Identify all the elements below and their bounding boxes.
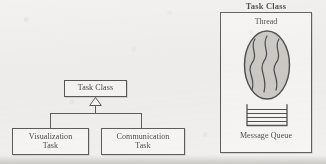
class-box-communication-task[interactable]: Communication Task xyxy=(101,128,185,155)
connector-drop-communication xyxy=(141,113,142,128)
scan-bottom-smudge xyxy=(0,155,326,164)
class-box-task-class[interactable]: Task Class xyxy=(64,80,127,97)
message-queue-icon xyxy=(246,104,288,127)
message-queue-label: Message Queue xyxy=(221,131,311,140)
thread-ellipse-icon xyxy=(243,30,291,100)
connector-horizontal-bus xyxy=(50,113,141,114)
class-box-visualization-task-label: Visualization Task xyxy=(29,133,72,151)
connector-drop-visualization xyxy=(50,113,51,128)
class-box-task-class-label: Task Class xyxy=(78,84,113,93)
class-box-communication-task-label: Communication Task xyxy=(117,133,170,151)
task-class-panel-title: Task Class xyxy=(220,1,312,11)
thread-label: Thread xyxy=(221,17,311,26)
task-class-detail-panel[interactable]: Thread xyxy=(220,12,312,153)
figure-task-class-architecture: Task Class Visualization Task Communicat… xyxy=(0,0,326,164)
class-box-visualization-task[interactable]: Visualization Task xyxy=(12,128,89,155)
